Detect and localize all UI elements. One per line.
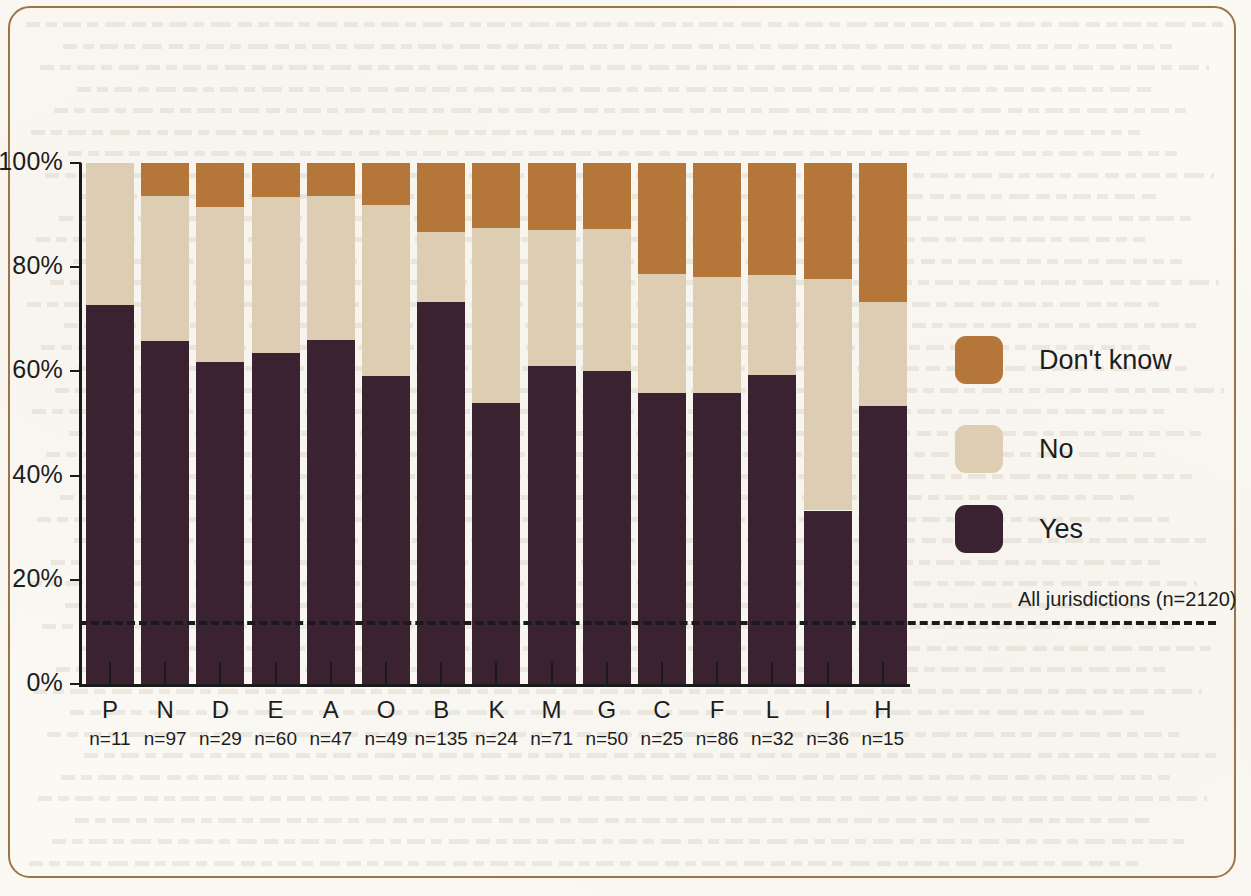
bar-segment-don-t-know-n xyxy=(141,163,189,196)
x-axis-tick xyxy=(330,662,332,684)
bar-segment-no-g xyxy=(583,229,631,372)
bar-segment-no-e xyxy=(252,197,300,352)
x-axis-tick xyxy=(827,662,829,684)
x-axis-tick xyxy=(551,662,553,684)
bar-segment-yes-d xyxy=(196,362,244,684)
bar-segment-yes-f xyxy=(693,393,741,684)
bar-segment-yes-o xyxy=(362,376,410,684)
all-jurisdictions-reference-label: All jurisdictions (n=2120) xyxy=(1018,588,1236,611)
x-axis-tick xyxy=(882,662,884,684)
bar-segment-don-t-know-c xyxy=(638,163,686,274)
legend-label-yes: Yes xyxy=(1039,514,1083,545)
x-axis-tick xyxy=(219,662,221,684)
bar-segment-yes-p xyxy=(86,305,134,684)
bar-segment-no-p xyxy=(86,163,134,305)
x-axis-tick xyxy=(495,662,497,684)
bar-segment-don-t-know-f xyxy=(693,163,741,277)
x-axis-line xyxy=(79,684,910,687)
bar-segment-yes-c xyxy=(638,393,686,684)
y-axis-tick-label: 100% xyxy=(0,147,63,176)
bar-segment-no-f xyxy=(693,277,741,394)
y-axis-line xyxy=(79,163,82,687)
legend-label-no: No xyxy=(1039,434,1074,465)
bar-segment-yes-g xyxy=(583,371,631,684)
y-axis-tick xyxy=(70,266,81,268)
bar-segment-don-t-know-i xyxy=(804,163,852,279)
legend-swatch-no xyxy=(955,425,1003,473)
x-axis-tick xyxy=(606,662,608,684)
y-axis-tick-label: 20% xyxy=(0,564,63,593)
x-axis-tick xyxy=(109,662,111,684)
bar-segment-no-n xyxy=(141,196,189,341)
y-axis-tick xyxy=(70,579,81,581)
bar-segment-don-t-know-o xyxy=(362,163,410,205)
bar-segment-don-t-know-a xyxy=(307,163,355,196)
legend-entry-yes[interactable]: Yes xyxy=(955,505,1083,553)
bar-segment-don-t-know-e xyxy=(252,163,300,197)
bar-segment-yes-e xyxy=(252,353,300,684)
x-axis-tick xyxy=(716,662,718,684)
y-axis-tick-label: 80% xyxy=(0,251,63,280)
y-axis-tick-label: 0% xyxy=(0,668,63,697)
bar-segment-no-m xyxy=(528,230,576,367)
bar-segment-no-k xyxy=(472,228,520,403)
bar-segment-no-d xyxy=(196,207,244,362)
y-axis-tick xyxy=(70,683,81,685)
bar-segment-don-t-know-k xyxy=(472,163,520,228)
bar-segment-yes-l xyxy=(748,375,796,684)
bar-segment-yes-h xyxy=(859,406,907,684)
x-axis-tick xyxy=(440,662,442,684)
x-axis-tick xyxy=(385,662,387,684)
bar-segment-don-t-know-d xyxy=(196,163,244,207)
bar-segment-don-t-know-h xyxy=(859,163,907,302)
bar-segment-no-h xyxy=(859,302,907,406)
bar-segment-no-b xyxy=(417,232,465,302)
x-axis-tick xyxy=(771,662,773,684)
bar-segment-no-o xyxy=(362,205,410,375)
legend-swatch-yes xyxy=(955,505,1003,553)
bar-segment-no-c xyxy=(638,274,686,393)
x-axis-category-label-h: H xyxy=(849,696,917,724)
x-axis-tick xyxy=(275,662,277,684)
legend-entry-no[interactable]: No xyxy=(955,425,1074,473)
x-axis-sample-size-label-h: n=15 xyxy=(849,728,917,750)
legend-label-dont-know: Don't know xyxy=(1039,345,1172,376)
x-axis-tick xyxy=(661,662,663,684)
bar-segment-yes-n xyxy=(141,341,189,684)
bar-segment-yes-k xyxy=(472,403,520,684)
bar-segment-no-i xyxy=(804,279,852,510)
legend-swatch-dont-know xyxy=(955,336,1003,384)
x-axis-tick xyxy=(164,662,166,684)
bar-segment-don-t-know-m xyxy=(528,163,576,230)
bar-segment-don-t-know-g xyxy=(583,163,631,229)
y-axis-tick-label: 40% xyxy=(0,460,63,489)
y-axis-tick xyxy=(70,162,81,164)
bar-segment-yes-b xyxy=(417,302,465,684)
y-axis-tick xyxy=(70,475,81,477)
bar-segment-no-a xyxy=(307,196,355,340)
all-jurisdictions-reference-line xyxy=(79,621,1216,625)
bar-segment-no-l xyxy=(748,275,796,375)
bar-segment-yes-a xyxy=(307,340,355,684)
bar-segment-don-t-know-l xyxy=(748,163,796,275)
bar-segment-yes-i xyxy=(804,511,852,684)
bar-segment-yes-m xyxy=(528,366,576,684)
y-axis-tick xyxy=(70,370,81,372)
legend-entry-dont-know[interactable]: Don't know xyxy=(955,336,1172,384)
bar-segment-don-t-know-b xyxy=(417,163,465,232)
y-axis-tick-label: 60% xyxy=(0,355,63,384)
